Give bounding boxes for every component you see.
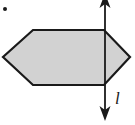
geometry-figure: l [0,0,135,125]
line-l-label: l [115,90,120,107]
hexagon-shape [3,30,130,85]
corner-dot-icon [3,7,7,11]
